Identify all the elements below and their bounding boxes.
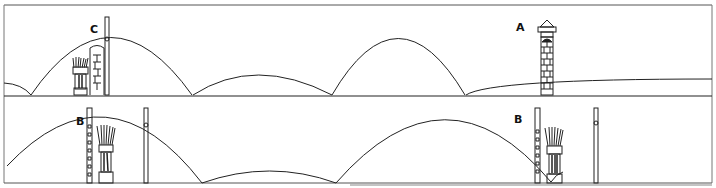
- arch-2: [31, 38, 192, 96]
- brush-basket-b2: [545, 127, 563, 183]
- frame: [4, 5, 712, 185]
- label-a: A: [516, 21, 525, 34]
- label-b2: B: [514, 113, 522, 126]
- arch-8: [336, 120, 551, 183]
- arch-3: [193, 75, 332, 95]
- brick-tower-a: [538, 20, 556, 95]
- bottom-panel: B B: [7, 108, 598, 183]
- brush-basket-b1: [97, 125, 115, 183]
- top-panel: C A: [4, 17, 712, 95]
- arch-4: [332, 39, 465, 96]
- ladder-pole-b1: [87, 108, 92, 183]
- brick-tower-c: [90, 46, 104, 96]
- pole-c: [105, 17, 109, 95]
- diagram-canvas: C A: [0, 0, 716, 188]
- ladder-pole-b2: [535, 108, 540, 183]
- label-c: C: [90, 23, 98, 36]
- label-b1: B: [76, 115, 84, 128]
- arch-1: [4, 83, 31, 95]
- pole-b1: [144, 108, 148, 183]
- arch-5: [466, 79, 712, 95]
- brush-basket-c: [73, 57, 88, 95]
- arch-7: [202, 171, 336, 183]
- pole-b2: [594, 108, 598, 183]
